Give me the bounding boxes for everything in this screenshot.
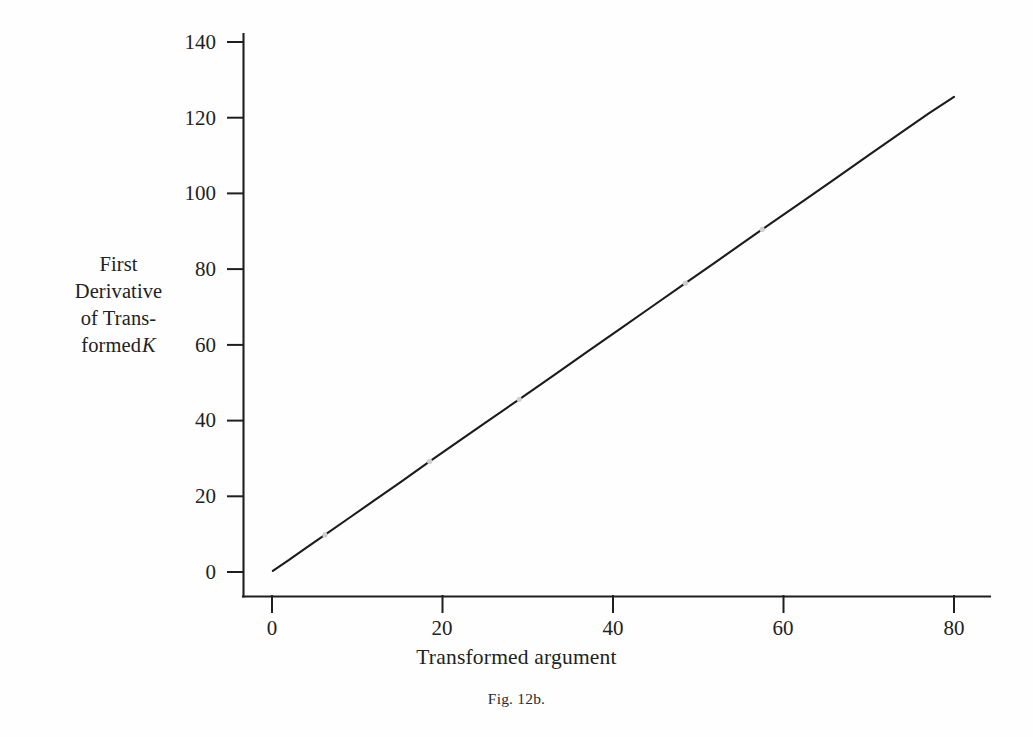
- data-marker-1: [427, 459, 432, 464]
- x-axis-title: Transformed argument: [0, 645, 1033, 670]
- y-axis-title-line-2: Derivative: [52, 278, 185, 305]
- x-tick-label-80: 80: [926, 618, 982, 639]
- y-tick-label-140: 140: [160, 32, 216, 53]
- figure-caption: Fig. 12b.: [0, 690, 1033, 708]
- y-tick-label-120: 120: [160, 108, 216, 129]
- data-marker-0: [322, 532, 327, 537]
- plot-area: [0, 0, 1033, 737]
- x-tick-label-60: 60: [755, 618, 811, 639]
- x-axis-ticks: [272, 596, 954, 612]
- data-marker-3: [683, 281, 688, 286]
- y-axis-title-variable: K: [141, 334, 156, 356]
- y-tick-label-0: 0: [160, 562, 216, 583]
- y-axis-title-line-3: of Trans-: [52, 305, 185, 332]
- x-tick-label-0: 0: [244, 618, 300, 639]
- data-marker-4: [760, 227, 765, 232]
- y-tick-label-100: 100: [160, 183, 216, 204]
- y-tick-label-60: 60: [160, 335, 216, 356]
- y-tick-label-20: 20: [160, 486, 216, 507]
- y-tick-label-40: 40: [160, 410, 216, 431]
- y-axis-ticks: [228, 42, 243, 572]
- data-marker-2: [517, 397, 522, 402]
- figure-container: First Derivative of Trans- formedK 0 20 …: [0, 0, 1033, 737]
- data-series-line: [273, 97, 954, 571]
- y-axis-title-line-4-text: formed: [81, 334, 141, 356]
- y-tick-label-80: 80: [160, 259, 216, 280]
- x-tick-label-40: 40: [585, 618, 641, 639]
- x-tick-label-20: 20: [414, 618, 470, 639]
